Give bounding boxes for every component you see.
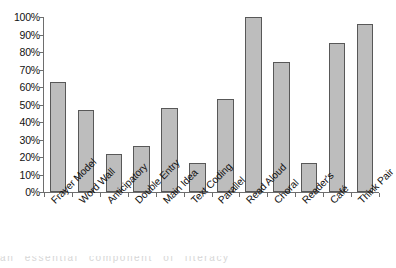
page-bleed-text: an essential component of literacy: [0, 256, 383, 268]
bar: [245, 17, 262, 192]
bar: [50, 82, 67, 192]
page-bleed-line: an essential component of literacy: [0, 256, 383, 263]
bar: [357, 24, 374, 192]
plot-area: 100%90%80%70%60%50%40%30%20%10%0% Frayer…: [0, 0, 383, 200]
bar: [329, 43, 346, 192]
